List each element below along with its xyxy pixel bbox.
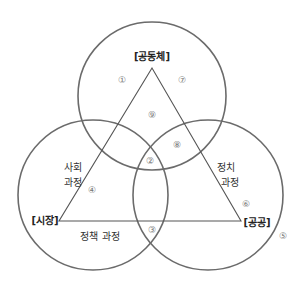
public-label: [공공] <box>243 217 270 228</box>
policy-process-label: 정책 과정 <box>80 231 119 242</box>
region-9-number: ⑨ <box>148 110 156 120</box>
region-5-number: ⑤ <box>279 231 287 241</box>
region-4-number: ④ <box>88 185 96 195</box>
region-1-number: ① <box>118 75 126 85</box>
political-process-label-line2: 과정 <box>221 177 239 188</box>
community-label: [공동체] <box>134 50 170 62</box>
market-label: [시장] <box>31 214 58 226</box>
region-2-number: ② <box>146 156 154 166</box>
public-circle <box>133 120 283 270</box>
venn-diagram: [공동체] [시장] [공공] 사회 과정 정치 과정 정책 과정 ① ② ③ … <box>0 0 307 287</box>
region-3-number: ③ <box>148 225 156 235</box>
social-process-label-line2: 과정 <box>64 177 82 188</box>
region-7-number: ⑦ <box>178 75 186 85</box>
region-8-number: ⑧ <box>173 140 181 150</box>
region-6-number: ⑥ <box>242 199 250 209</box>
market-circle <box>18 120 168 270</box>
political-process-label-line1: 정치 <box>217 162 235 173</box>
process-triangle <box>59 68 241 221</box>
social-process-label-line1: 사회 <box>64 162 82 173</box>
